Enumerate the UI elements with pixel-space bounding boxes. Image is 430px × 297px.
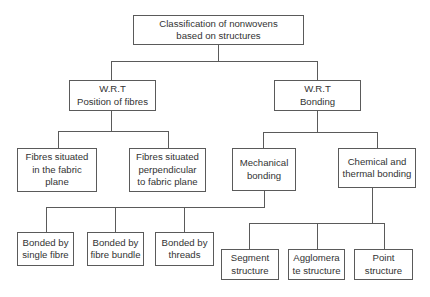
connector-to-point [384, 223, 385, 249]
node-wrt-position-line-2: Position of fibres [77, 96, 148, 109]
node-wrt-bonding-line-1: W.R.T [300, 83, 335, 96]
connector-wrt-position-down [111, 110, 112, 131]
node-perpendicular-line-2: perpendicular [136, 164, 199, 177]
node-single-fibre: Bonded by single fibre [17, 232, 74, 266]
node-fibre-bundle: Bonded by fibre bundle [87, 232, 144, 266]
node-chemical-line-2: thermal bonding [343, 168, 412, 181]
node-segment-line-2: structure [231, 265, 269, 278]
node-single-fibre-line-1: Bonded by [22, 237, 68, 250]
connector-root-down [218, 44, 219, 61]
connector-to-chemical [377, 132, 378, 148]
node-agglomerate-line-2: te structure [293, 265, 341, 278]
node-wrt-bonding-line-2: Bonding [300, 96, 335, 109]
connector-to-segment [249, 223, 250, 249]
node-in-plane: Fibres situated in the fabric plane [17, 148, 97, 192]
node-in-plane-line-2: in the fabric [26, 164, 89, 177]
connector-to-threads [184, 207, 185, 232]
node-threads-line-1: Bonded by [162, 237, 208, 250]
node-threads: Bonded by threads [155, 232, 214, 266]
node-agglomerate: Agglomera te structure [288, 249, 345, 280]
connector-to-mechanical [263, 132, 264, 148]
node-chemical-line-1: Chemical and [343, 156, 412, 169]
node-mechanical-line-1: Mechanical [240, 157, 289, 170]
node-threads-line-2: threads [162, 249, 208, 262]
node-root: Classification of nonwovens based on str… [133, 15, 304, 45]
connector-to-agglomerate [317, 223, 318, 249]
connector-wrt-bonding-down [317, 111, 318, 132]
node-perpendicular: Fibres situated perpendicular to fabric … [129, 148, 206, 192]
connector-to-perpendicular [168, 131, 169, 148]
node-root-line-2: based on structures [159, 30, 277, 43]
node-single-fibre-line-2: single fibre [22, 249, 68, 262]
connector-level1-bar [111, 61, 318, 62]
node-fibre-bundle-line-1: Bonded by [90, 237, 140, 250]
connector-to-single-fibre [46, 207, 47, 232]
connector-mechanical-bar [46, 207, 265, 208]
node-root-line-1: Classification of nonwovens [159, 18, 277, 31]
connector-chemical-down [372, 187, 373, 223]
connector-to-wrt-bonding [317, 61, 318, 80]
node-mechanical-line-2: bonding [240, 170, 289, 183]
node-point: Point structure [354, 249, 413, 280]
node-wrt-position-line-1: W.R.T [77, 83, 148, 96]
connector-mechanical-down [264, 190, 265, 207]
connector-to-wrt-position [111, 61, 112, 80]
connector-bonding-bar [263, 132, 378, 133]
node-in-plane-line-1: Fibres situated [26, 151, 89, 164]
node-wrt-position: W.R.T Position of fibres [69, 80, 156, 111]
node-agglomerate-line-1: Agglomera [293, 252, 341, 265]
node-wrt-bonding: W.R.T Bonding [274, 80, 361, 111]
node-point-line-2: structure [365, 265, 402, 278]
node-segment-line-1: Segment [231, 252, 269, 265]
node-fibre-bundle-line-2: fibre bundle [90, 249, 140, 262]
node-perpendicular-line-1: Fibres situated [136, 151, 199, 164]
node-in-plane-line-3: plane [26, 176, 89, 189]
node-point-line-1: Point [365, 252, 402, 265]
node-perpendicular-line-3: to fabric plane [136, 176, 199, 189]
node-segment: Segment structure [221, 249, 279, 280]
connector-to-fibre-bundle [115, 207, 116, 232]
node-mechanical: Mechanical bonding [232, 148, 296, 191]
connector-position-bar [58, 131, 169, 132]
node-chemical-thermal: Chemical and thermal bonding [338, 148, 416, 188]
connector-to-in-plane [58, 131, 59, 148]
